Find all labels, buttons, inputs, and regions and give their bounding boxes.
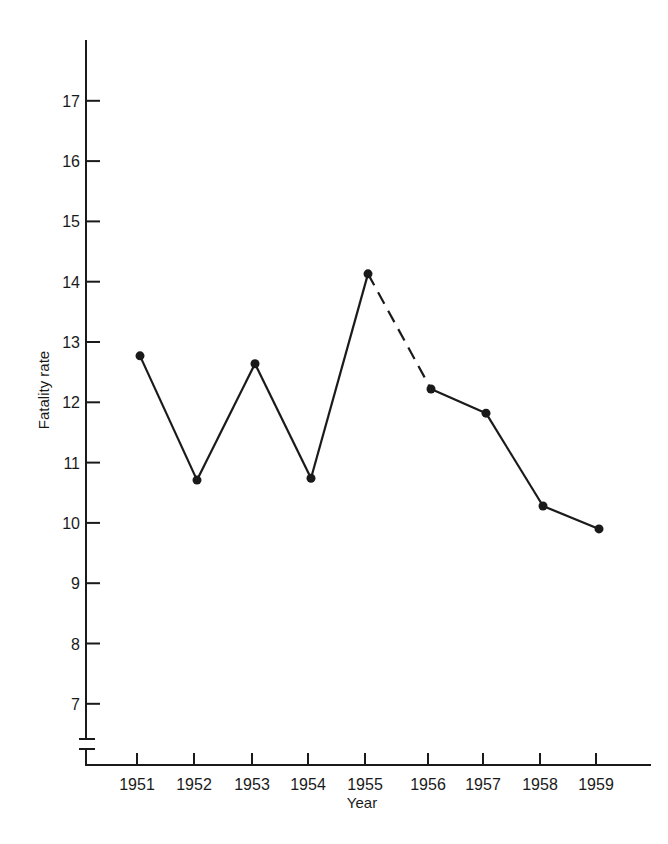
x-tick-label: 1954 xyxy=(290,776,326,793)
y-tick-label: 7 xyxy=(71,696,80,713)
x-tick-label: 1955 xyxy=(347,776,383,793)
line-segment xyxy=(431,389,486,413)
data-point-marker xyxy=(539,502,548,511)
data-point-marker xyxy=(136,351,145,360)
y-tick-label: 15 xyxy=(62,213,80,230)
x-axis-title: Year xyxy=(347,794,377,811)
x-tick-label: 1952 xyxy=(176,776,212,793)
y-tick-label: 11 xyxy=(63,455,80,472)
data-point-marker xyxy=(482,409,491,418)
x-tick-label: 1956 xyxy=(410,776,446,793)
line-segment xyxy=(140,356,197,480)
line-segment xyxy=(255,364,311,479)
data-point-marker xyxy=(364,269,373,278)
y-axis: 7891011121314151617 xyxy=(62,40,100,765)
y-tick-label: 13 xyxy=(62,334,80,351)
x-tick-label: 1957 xyxy=(465,776,501,793)
line-segment xyxy=(311,274,368,478)
y-axis-title: Fatality rate xyxy=(35,351,52,429)
data-series xyxy=(136,269,604,533)
x-axis: 195119521953195419551956195719581959 xyxy=(85,753,651,793)
line-chart: 7891011121314151617 19511952195319541955… xyxy=(0,0,668,844)
y-tick-label: 10 xyxy=(62,515,80,532)
data-point-marker xyxy=(251,359,260,368)
y-tick-label: 8 xyxy=(71,636,80,653)
line-segment xyxy=(197,364,255,480)
line-segment xyxy=(543,506,599,529)
data-point-marker xyxy=(307,474,316,483)
y-tick-label: 16 xyxy=(62,153,80,170)
x-tick-label: 1951 xyxy=(119,776,155,793)
x-tick-label: 1959 xyxy=(578,776,614,793)
data-point-marker xyxy=(427,385,436,394)
x-tick-label: 1958 xyxy=(522,776,558,793)
y-tick-label: 12 xyxy=(62,394,80,411)
x-tick-label: 1953 xyxy=(234,776,270,793)
y-tick-label: 14 xyxy=(62,274,80,291)
data-point-marker xyxy=(193,476,202,485)
line-segment xyxy=(368,274,431,389)
y-tick-label: 9 xyxy=(71,575,80,592)
y-tick-label: 17 xyxy=(62,93,80,110)
line-segment xyxy=(486,413,543,506)
data-point-marker xyxy=(595,524,604,533)
